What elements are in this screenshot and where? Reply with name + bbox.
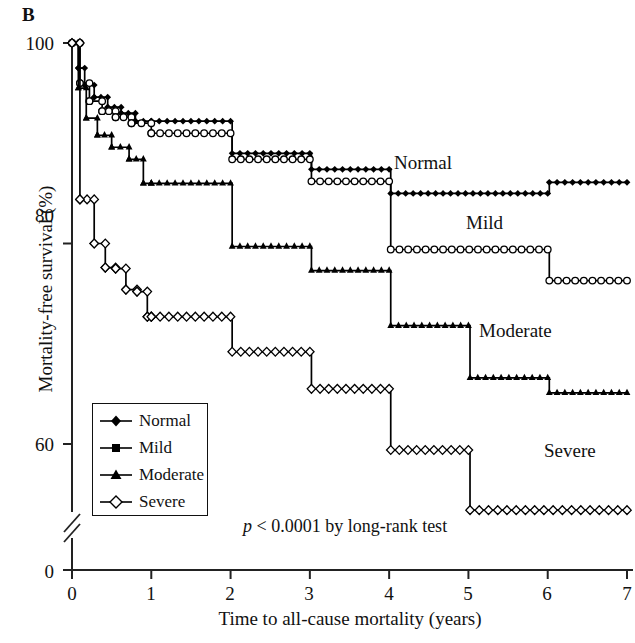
censor-marker (378, 166, 385, 173)
censor-marker (378, 266, 385, 272)
censor-marker (558, 506, 566, 515)
censor-marker (317, 178, 324, 185)
censor-marker (126, 155, 133, 161)
censor-marker (529, 190, 536, 197)
legend-item-normal[interactable]: Normal (99, 408, 191, 434)
censor-marker (122, 264, 130, 273)
censor-marker (593, 389, 600, 395)
censor-marker (156, 312, 164, 321)
censor-marker (99, 108, 106, 115)
censor-marker (308, 178, 315, 185)
censor-marker (494, 506, 502, 515)
censor-marker (210, 130, 217, 137)
p-value-symbol: p (243, 516, 252, 536)
censor-marker (585, 179, 592, 186)
censor-marker (281, 156, 288, 163)
censor-marker (442, 322, 449, 328)
censor-marker (188, 179, 195, 185)
censor-marker (347, 266, 354, 272)
censor-marker (475, 506, 483, 515)
censor-marker (438, 446, 446, 455)
censor-marker (426, 322, 433, 328)
censor-marker (403, 322, 410, 328)
censor-marker (466, 506, 474, 515)
censor-marker (449, 322, 456, 328)
censor-marker (333, 384, 341, 393)
censor-marker (606, 277, 613, 284)
censor-marker (227, 130, 234, 137)
censor-marker (195, 179, 202, 185)
censor-marker (492, 190, 499, 197)
censor-marker (68, 39, 76, 48)
censor-marker (589, 277, 596, 284)
censor-marker (289, 156, 296, 163)
censor-marker (616, 179, 623, 186)
legend-item-moderate[interactable]: Moderate (99, 462, 204, 488)
censor-marker (226, 312, 234, 321)
censor-marker (268, 242, 275, 248)
censor-marker (339, 266, 346, 272)
legend-label-mild: Mild (139, 438, 172, 458)
filled-triangle-icon (99, 466, 133, 484)
censor-marker (174, 312, 182, 321)
censor-marker (81, 65, 88, 72)
censor-marker (268, 150, 275, 157)
censor-marker (237, 156, 244, 163)
censor-marker (569, 389, 576, 395)
censor-marker (308, 266, 315, 272)
censor-marker (94, 131, 101, 137)
censor-marker (593, 179, 600, 186)
censor-marker (263, 156, 270, 163)
censor-marker (126, 143, 133, 149)
legend-item-mild[interactable]: Mild (99, 435, 172, 461)
p-value-annotation: p < 0.0001 by long-rank test (243, 516, 447, 537)
censor-marker (117, 143, 124, 149)
censor-marker (477, 190, 484, 197)
curve-label-mild: Mild (466, 212, 503, 234)
legend-label-normal: Normal (139, 411, 191, 431)
censor-marker (183, 130, 190, 137)
censor-marker (166, 130, 173, 137)
curve-label-severe: Severe (544, 440, 596, 462)
censor-marker (598, 277, 605, 284)
censor-marker (343, 178, 350, 185)
censor-marker (86, 80, 93, 87)
legend-item-severe[interactable]: Severe (99, 489, 185, 515)
censor-marker (182, 312, 190, 321)
censor-marker (421, 446, 429, 455)
censor-marker (108, 143, 115, 149)
censor-marker (498, 374, 505, 380)
censor-marker (456, 446, 464, 455)
censor-marker (108, 131, 115, 137)
censor-marker (90, 195, 98, 204)
censor-marker (101, 263, 109, 272)
censor-marker (229, 242, 236, 248)
censor-marker (316, 384, 324, 393)
censor-marker (255, 156, 262, 163)
censor-marker (122, 285, 130, 294)
censor-marker (148, 179, 155, 185)
censor-marker (623, 506, 631, 515)
censor-marker (325, 384, 333, 393)
censor-marker (544, 374, 551, 380)
censor-marker (546, 179, 553, 186)
censor-marker (536, 246, 543, 253)
censor-marker (211, 179, 218, 185)
censor-marker (260, 242, 267, 248)
legend-box: Normal Mild Moderate Severe (92, 403, 208, 516)
censor-marker (180, 118, 187, 125)
censor-marker (191, 312, 199, 321)
censor-marker (143, 287, 151, 296)
censor-marker (405, 246, 412, 253)
censor-marker (94, 114, 101, 120)
censor-marker (299, 242, 306, 248)
censor-marker (385, 384, 393, 393)
censor-marker (412, 446, 420, 455)
censor-marker (219, 118, 226, 125)
censor-marker (368, 384, 376, 393)
censor-marker (499, 190, 506, 197)
censor-marker (377, 178, 384, 185)
censor-marker (624, 277, 631, 284)
censor-marker (490, 374, 497, 380)
censor-marker (227, 179, 234, 185)
